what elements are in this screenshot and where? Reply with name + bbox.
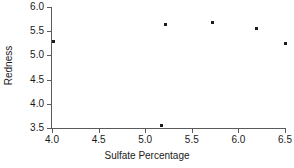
x-tick-label: 6.5 bbox=[268, 135, 294, 145]
data-point bbox=[255, 27, 258, 30]
y-tick-label: 4.0 bbox=[14, 99, 44, 109]
x-tick-mark bbox=[238, 129, 239, 133]
data-point bbox=[284, 42, 287, 45]
y-axis-title: Redness bbox=[3, 26, 14, 106]
x-tick-label: 6.0 bbox=[221, 135, 255, 145]
x-tick-mark bbox=[285, 129, 286, 133]
y-tick-label: 5.5 bbox=[14, 26, 44, 36]
y-tick-label: 6.0 bbox=[14, 2, 44, 12]
y-tick-label: 4.5 bbox=[14, 75, 44, 85]
data-point bbox=[160, 124, 163, 127]
data-point bbox=[164, 23, 167, 26]
y-tick-mark bbox=[47, 7, 51, 8]
x-tick-label: 5.0 bbox=[128, 135, 162, 145]
x-tick-mark bbox=[99, 129, 100, 133]
x-tick-label: 4.0 bbox=[35, 135, 69, 145]
y-tick-mark bbox=[47, 31, 51, 32]
y-tick-mark bbox=[47, 55, 51, 56]
x-tick-label: 4.5 bbox=[82, 135, 116, 145]
data-point bbox=[52, 40, 55, 43]
scatter-chart: 6.05.55.04.54.03.5 4.04.55.05.56.06.5 Su… bbox=[0, 0, 294, 168]
x-tick-mark bbox=[52, 129, 53, 133]
data-point bbox=[211, 21, 214, 24]
y-tick-label: 5.0 bbox=[14, 50, 44, 60]
y-tick-mark bbox=[47, 128, 51, 129]
x-axis-spine bbox=[52, 128, 286, 129]
x-tick-label: 5.5 bbox=[175, 135, 209, 145]
y-tick-mark bbox=[47, 80, 51, 81]
x-tick-mark bbox=[145, 129, 146, 133]
plot-area bbox=[52, 7, 285, 128]
x-axis-title: Sulfate Percentage bbox=[0, 150, 294, 161]
x-tick-mark bbox=[192, 129, 193, 133]
y-tick-label: 3.5 bbox=[14, 123, 44, 133]
y-tick-mark bbox=[47, 104, 51, 105]
